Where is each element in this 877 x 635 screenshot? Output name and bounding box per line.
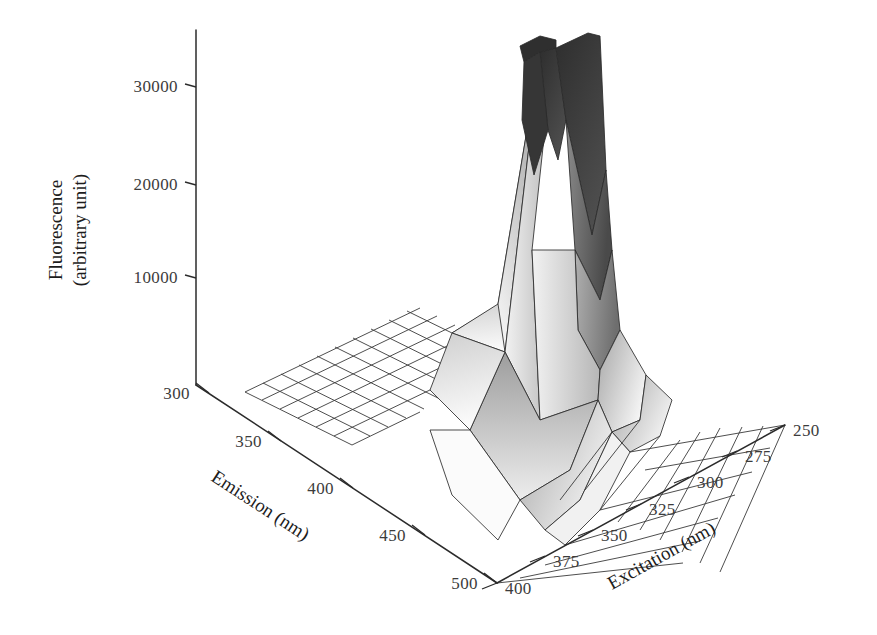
z-axis-title-line2: (arbitrary unit) [69,174,91,286]
emission-tick-label-400: 400 [307,479,334,498]
emission-axis-title: Emission (nm) [207,466,313,546]
excitation-tick-label-400: 400 [505,579,532,598]
excitation-tick-label-325: 325 [649,500,676,519]
excitation-tick-label-300: 300 [697,473,724,492]
z-tick-label-10000: 10000 [134,268,179,287]
surface-body [430,33,672,545]
emission-tick-label-500: 500 [451,574,478,593]
emission-tick-label-300: 300 [163,384,190,403]
excitation-tick-label-250: 250 [793,421,820,440]
excitation-tick-label-275: 275 [745,447,772,466]
emission-tick-label-350: 350 [235,432,262,451]
emission-tick-label-450: 450 [379,526,406,545]
z-axis-title-line1: Fluorescence [45,180,66,280]
excitation-tick-label-350: 350 [601,526,628,545]
z-tick-label-20000: 20000 [134,175,179,194]
z-axis-ticks [185,84,196,278]
surface-plot-canvas: 30000 20000 10000 300 350 400 450 500 25… [0,0,877,635]
z-tick-label-30000: 30000 [134,77,179,96]
fluorescence-excitation-emission-matrix-figure: 30000 20000 10000 300 350 400 450 500 25… [0,0,877,635]
excitation-tick-label-375: 375 [553,552,580,571]
